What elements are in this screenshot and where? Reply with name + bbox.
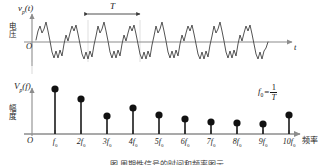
spectrum-y-axis-label: Vp(f) [14,82,31,93]
tick-label-4f0: 4f0 [129,137,138,148]
stem-f0 [51,85,58,134]
time-domain-plot [24,14,292,66]
stem-6f0 [181,115,188,134]
equals-sign: = [264,88,269,97]
f0-equation-annotation: f0= 1 T [258,83,277,102]
stem-10f0 [285,111,292,134]
stem-3f0 [103,112,110,134]
spectrum-stems [51,85,292,134]
stem-2f0 [77,95,84,134]
stem-8f0 [233,119,240,134]
waveform-trace [36,22,268,59]
period-label: T [110,2,115,11]
tick-label-9f0: 9f0 [259,137,268,148]
stem-7f0 [207,118,214,134]
stem-9f0 [259,120,266,134]
tick-label-2f0: 2f0 [77,137,86,148]
spectrum-y-axis-name: 幅度 [8,104,16,132]
figure-container: vp(t) 电压 O t T Vp(f) 幅度 O 频率 f0= 1 T f0 … [0,0,334,165]
stem-4f0 [129,104,136,134]
stem-5f0 [155,111,162,134]
tick-label-8f0: 8f0 [233,137,242,148]
tick-label-3f0: 3f0 [103,137,112,148]
time-plot-x-axis-label: t [294,43,296,52]
fraction-one-over-T: 1 T [270,83,277,102]
tick-label-f0: f0 [53,137,58,148]
spectrum-x-axis-name: 频率 [302,137,318,145]
tick-label-5f0: 5f0 [155,137,164,148]
tick-label-6f0: 6f0 [181,137,190,148]
spectrum-origin-label: O [27,136,33,145]
tick-label-7f0: 7f0 [207,137,216,148]
fraction-denominator: T [270,92,277,102]
time-plot-origin-label: O [26,42,32,51]
tick-label-10f0: 10f0 [283,137,296,148]
f0-symbol: f0 [258,87,263,98]
fraction-numerator: 1 [271,83,277,92]
time-plot-y-axis-name: 电压 [8,22,16,52]
time-plot-y-axis-label: vp(t) [18,4,33,15]
figure-caption: 图 周期性信号的时间和频率图示 [0,158,334,165]
